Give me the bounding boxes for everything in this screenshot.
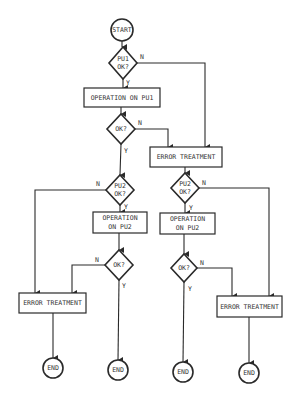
svg-text:PU2: PU2 [114, 182, 126, 190]
label-ok-left-no: N [95, 256, 99, 264]
process-error-treatment-1: ERROR TREATMENT [150, 147, 222, 167]
end-node-2: END [108, 360, 128, 380]
flowchart: N Y N Y N Y N Y N Y N Y START PU1 OK? OP… [0, 0, 297, 407]
decision-ok-1: OK? [107, 114, 135, 144]
svg-text:ERROR TREATMENT: ERROR TREATMENT [220, 303, 279, 311]
svg-text:OPERATION: OPERATION [170, 215, 205, 223]
label-ok1-yes: Y [124, 147, 128, 155]
start-node: START [111, 19, 133, 41]
svg-text:OK?: OK? [115, 125, 127, 133]
label-pu2-left-yes: Y [124, 203, 128, 211]
svg-text:PU1: PU1 [117, 55, 129, 63]
svg-text:OK?: OK? [113, 261, 125, 269]
process-operation-pu1: OPERATION ON PU1 [84, 88, 160, 107]
svg-text:END: END [112, 366, 124, 374]
label-pu2-left-no: N [96, 180, 100, 188]
start-label: START [112, 26, 132, 34]
svg-text:OK?: OK? [114, 190, 126, 198]
end-node-4: END [239, 363, 259, 383]
svg-text:PU2: PU2 [179, 180, 191, 188]
process-error-treatment-left: ERROR TREATMENT [19, 293, 86, 313]
decision-ok-right: OK? [171, 254, 197, 282]
end-node-3: END [173, 362, 193, 382]
label-pu1-yes: Y [126, 79, 130, 87]
decision-pu1-ok: PU1 OK? [109, 47, 137, 79]
svg-text:OK?: OK? [179, 188, 191, 196]
label-pu2-right-yes: Y [189, 204, 193, 212]
end-node-1: END [43, 358, 63, 378]
process-operation-pu2-right: OPERATION ON PU2 [160, 213, 215, 234]
decision-pu2-ok-right: PU2 OK? [171, 173, 199, 203]
label-pu1-no: N [140, 53, 144, 61]
svg-text:OPERATION: OPERATION [102, 214, 137, 222]
svg-text:END: END [177, 368, 189, 376]
svg-text:ON PU2: ON PU2 [108, 223, 132, 231]
svg-text:END: END [47, 364, 59, 372]
svg-text:END: END [243, 369, 255, 377]
svg-text:OK?: OK? [178, 264, 190, 272]
svg-text:ERROR TREATMENT: ERROR TREATMENT [157, 153, 216, 161]
svg-text:ON PU2: ON PU2 [176, 224, 200, 232]
svg-text:ERROR TREATMENT: ERROR TREATMENT [23, 299, 82, 307]
svg-text:OK?: OK? [117, 63, 129, 71]
label-pu2-right-no: N [202, 179, 206, 187]
decision-pu2-ok-left: PU2 OK? [106, 175, 134, 205]
label-ok-right-no: N [200, 259, 204, 267]
label-ok1-no: N [138, 119, 142, 127]
process-error-treatment-right: ERROR TREATMENT [217, 296, 282, 317]
label-ok-right-yes: Y [188, 285, 192, 293]
svg-text:OPERATION ON PU1: OPERATION ON PU1 [91, 94, 154, 102]
process-operation-pu2-left: OPERATION ON PU2 [93, 212, 147, 233]
label-ok-left-yes: Y [122, 282, 126, 290]
decision-ok-left: OK? [105, 250, 133, 280]
